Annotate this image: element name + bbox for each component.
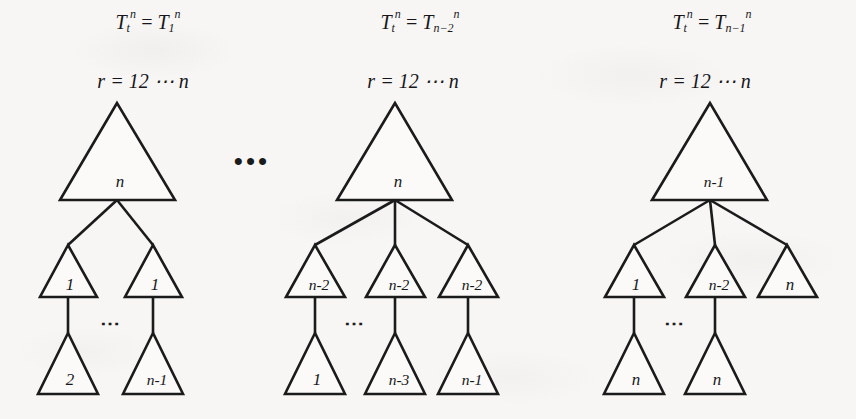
column-1-child-label-2: 1 [151,275,160,294]
column-1-rank: r = 12 ⋯ n [97,70,188,92]
column-1-edge-root-child-2 [117,200,153,245]
column-1-equation: Ttn=T1n [115,7,180,35]
column-2-child-label-2: n-2 [389,276,410,293]
column-2-leaf-label-3: n-1 [462,371,483,388]
column-1-header: Ttn=T1n r = 12 ⋯ n [97,7,188,92]
between-columns-ellipsis: ••• [234,147,270,176]
column-3-child-label-1: 1 [632,275,641,294]
column-3-edge-root-child-3 [710,200,787,245]
eq3-rhs-sub: n−1 [725,21,745,35]
eq1-rhs-sub: 1 [169,21,175,35]
column-3-edge-root-child-1 [634,200,710,245]
column-2-leaf-label-2: n-3 [389,371,410,388]
column-2-child-label-1: n-2 [309,276,330,293]
column-3-leaf-label-1: n [632,370,641,389]
column-1-leaf-ellipsis: ⋯ [100,312,122,334]
column-3-child-label-2: n-2 [709,276,730,293]
column-2-child-label-3: n-2 [462,276,483,293]
eq2-rhs-sup: n [454,7,460,21]
column-3-leaf-ellipsis: ⋯ [664,312,686,334]
column-3-child-label-3: n [786,275,795,294]
column-3-equation: Ttn=Tn−1n [672,7,751,35]
column-2-rank: r = 12 ⋯ n [367,70,458,92]
column-2-leaf-label-1: 1 [313,370,322,389]
eq1-rhs-sup: n [175,7,181,21]
tree-diagram-figure: Ttn=T1n r = 12 ⋯ n n 1 1 2 n-1 [0,0,856,419]
column-2-root-label: n [394,172,403,191]
column-3-edge-root-child-2 [710,200,715,245]
column-1-edge-root-child-1 [68,200,117,245]
eq1-sup: n [130,7,136,21]
eq2-rhs-sub: n−2 [433,21,453,35]
column-2-leaf-ellipsis: ⋯ [344,312,366,334]
column-3-root-label: n-1 [704,173,725,190]
column-1-child-label-1: 1 [66,275,75,294]
column-2-edge-root-child-3 [395,200,468,245]
diagram-canvas: Ttn=T1n r = 12 ⋯ n n 1 1 2 n-1 [0,0,856,419]
eq3-sup: n [687,7,693,21]
column-1-root-label: n [116,172,125,191]
eq2-sup: n [395,7,401,21]
column-3-header: Ttn=Tn−1n r = 12 ⋯ n [659,7,751,92]
column-1: Ttn=T1n r = 12 ⋯ n n 1 1 2 n-1 [38,7,189,394]
eq3-rhs-sup: n [746,7,752,21]
eq3-sub: t [684,21,688,35]
column-3-leaf-label-2: n [713,370,722,389]
column-2-header: Ttn=Tn−2n r = 12 ⋯ n [367,7,459,92]
column-3: Ttn=Tn−1n r = 12 ⋯ n n-1 1 n-2 n n [604,7,817,394]
column-2-edge-root-child-1 [315,200,395,245]
eq1-sub: t [127,21,131,35]
column-1-leaf-label-2: n-1 [147,371,168,388]
column-3-rank: r = 12 ⋯ n [659,70,750,92]
column-1-leaf-label-1: 2 [66,370,75,389]
column-2-equation: Ttn=Tn−2n [380,7,459,35]
column-2: Ttn=Tn−2n r = 12 ⋯ n n n-2 n-2 n-2 [285,7,498,394]
eq2-sub: t [392,21,396,35]
